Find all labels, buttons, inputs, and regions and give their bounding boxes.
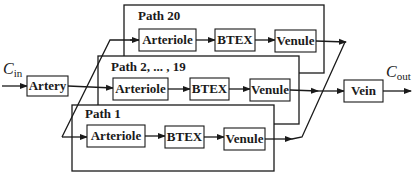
path-20-title: Path 20 bbox=[138, 9, 180, 22]
path-2-19-venule-label: Venule bbox=[250, 79, 290, 101]
path-1-btex-label: BTEX bbox=[165, 126, 204, 148]
path-1-title: Path 1 bbox=[85, 107, 121, 120]
path-20-arteriole-label: Arteriole bbox=[139, 29, 196, 51]
blood-flow-path-diagram: Cin Cout Path 20 Path 2, ... , 19 Path 1… bbox=[0, 0, 413, 177]
vein-label: Vein bbox=[344, 80, 383, 102]
path-1-arteriole-label: Arteriole bbox=[87, 125, 145, 147]
path-2-19-arteriole-label: Arteriole bbox=[113, 78, 168, 100]
path-20-btex-label: BTEX bbox=[215, 29, 255, 51]
path-1-venule-label: Venule bbox=[224, 128, 265, 150]
input-symbol: C bbox=[3, 60, 14, 77]
output-subscript: out bbox=[397, 70, 411, 82]
path-20-venule-label: Venule bbox=[275, 30, 316, 52]
path-2-19-btex-label: BTEX bbox=[190, 78, 229, 100]
path-2-19-title: Path 2, ... , 19 bbox=[111, 60, 186, 73]
input-subscript: in bbox=[14, 67, 23, 79]
input-concentration-label: Cin bbox=[3, 61, 22, 79]
output-symbol: C bbox=[386, 63, 397, 80]
artery-label: Artery bbox=[27, 76, 68, 96]
output-concentration-label: Cout bbox=[386, 64, 411, 82]
